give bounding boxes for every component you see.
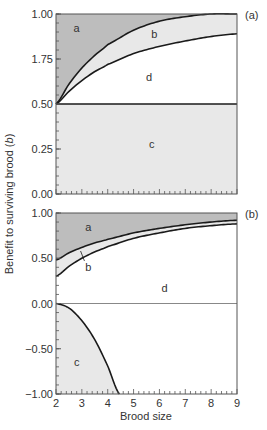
region-label-b: b	[85, 261, 91, 273]
x-tick-label: 6	[156, 397, 162, 409]
y-tick-label: 1.00	[32, 207, 53, 219]
x-tick-label: 3	[79, 397, 85, 409]
figure: 1.001.750.500.250.00abdc(a) 1.000.500.00…	[0, 0, 267, 430]
x-tick-label: 7	[182, 397, 188, 409]
panel-tag: (b)	[245, 208, 258, 220]
region-label-a: a	[85, 221, 92, 233]
region-label-c: c	[74, 356, 80, 368]
panel-a: 1.001.750.500.250.00abdc(a)	[32, 8, 259, 200]
region-label-d: d	[146, 71, 152, 83]
y-tick-label: 0.00	[32, 188, 53, 200]
region-c-fill	[56, 304, 119, 395]
region-label-d: d	[162, 282, 168, 294]
y-tick-label: 1.00	[32, 8, 53, 20]
y-tick-label: −0.50	[25, 343, 53, 355]
x-tick-label: 4	[105, 397, 111, 409]
region-label-c: c	[149, 138, 155, 150]
panel-tag: (a)	[245, 9, 258, 21]
region-label-a: a	[74, 22, 81, 34]
region-label-b: b	[151, 28, 157, 40]
y-tick-label: −1.00	[25, 388, 53, 400]
x-axis-title: Brood size	[120, 410, 172, 422]
y-tick-label: 1.75	[32, 53, 53, 65]
x-tick-label: 8	[208, 397, 214, 409]
y-tick-label: 0.50	[32, 252, 53, 264]
panel-b: 1.000.500.00−0.50−1.0023456789abdc(b)	[25, 207, 258, 409]
y-tick-label: 0.50	[32, 98, 53, 110]
x-tick-label: 5	[131, 397, 137, 409]
y-axis-title: Benefit to surviving brood (b)	[3, 134, 15, 275]
x-tick-label: 2	[53, 397, 59, 409]
region-c-fill	[56, 104, 237, 194]
y-tick-label: 0.00	[32, 298, 53, 310]
x-tick-label: 9	[234, 397, 240, 409]
y-tick-label: 0.25	[32, 143, 53, 155]
